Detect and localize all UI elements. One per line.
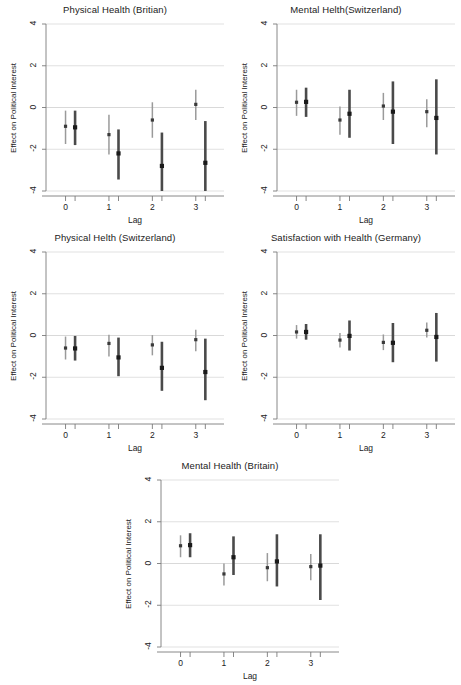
chart-panel: Physical Helth (Switzerland)Effect on Po… — [0, 228, 230, 456]
x-tick-label: 2 — [376, 202, 390, 212]
y-axis-label: Effect on Political Interest — [124, 509, 133, 619]
panel-title: Mental Helth(Switzerland) — [231, 4, 461, 15]
chart-panel: Mental Health (Britain)Effect on Politic… — [115, 456, 345, 684]
chart-panel: Mental Helth(Switzerland)Effect on Polit… — [231, 0, 461, 228]
x-tick-label: 0 — [59, 202, 73, 212]
x-tick-label: 3 — [189, 202, 203, 212]
y-tick-label: 2 — [259, 286, 269, 300]
series-estimate-a — [64, 90, 197, 155]
y-tick-label: 2 — [143, 514, 153, 528]
x-tick-label: 0 — [59, 430, 73, 440]
x-tick-label: 2 — [145, 430, 159, 440]
y-axis-label: Effect on Political Interest — [240, 281, 249, 391]
y-tick-label: -4 — [28, 411, 38, 425]
y-tick-label: -2 — [259, 141, 269, 155]
y-tick-label: 2 — [259, 58, 269, 72]
y-tick-label: 0 — [143, 556, 153, 570]
panel-title: Physical Helth (Switzerland) — [0, 232, 230, 243]
x-tick-label: 2 — [260, 658, 274, 668]
x-tick-label: 3 — [304, 658, 318, 668]
chart-panel: Physical Health (Britian)Effect on Polit… — [0, 0, 230, 228]
chart-panel: Satisfaction with Health (Germany)Effect… — [231, 228, 461, 456]
x-tick-label: 2 — [376, 430, 390, 440]
y-axis-label-text: Effect on Political Interest — [9, 281, 18, 391]
x-axis-label: Lag — [346, 215, 386, 225]
x-tick-label: 3 — [420, 202, 434, 212]
series-estimate-b — [73, 336, 207, 400]
series-estimate-b — [188, 533, 322, 600]
y-tick-label: 4 — [259, 244, 269, 258]
series-estimate-b — [304, 79, 438, 154]
y-tick-label: -2 — [259, 369, 269, 383]
y-axis-label-text: Effect on Political Interest — [240, 281, 249, 391]
x-axis-label: Lag — [115, 215, 155, 225]
x-tick-label: 0 — [290, 202, 304, 212]
series-estimate-a — [295, 323, 428, 351]
y-tick-label: 2 — [28, 58, 38, 72]
series-estimate-a — [179, 535, 312, 585]
y-tick-label: -2 — [143, 597, 153, 611]
y-axis-label-text: Effect on Political Interest — [240, 53, 249, 163]
y-tick-label: 0 — [259, 328, 269, 342]
x-axis-label: Lag — [230, 671, 270, 681]
x-tick-label: 1 — [102, 430, 116, 440]
y-tick-label: 4 — [28, 16, 38, 30]
x-tick-label: 1 — [217, 658, 231, 668]
y-tick-label: -4 — [259, 411, 269, 425]
x-tick-label: 0 — [290, 430, 304, 440]
y-tick-label: -2 — [28, 369, 38, 383]
series-estimate-b — [304, 313, 438, 362]
x-tick-label: 2 — [145, 202, 159, 212]
y-tick-label: -2 — [28, 141, 38, 155]
figure-panel-grid: Physical Health (Britian)Effect on Polit… — [0, 0, 461, 685]
y-tick-label: 4 — [259, 16, 269, 30]
x-tick-label: 3 — [420, 430, 434, 440]
series-estimate-a — [295, 90, 428, 135]
x-tick-label: 1 — [333, 430, 347, 440]
series-estimate-b — [73, 111, 207, 191]
series-estimate-a — [64, 330, 197, 360]
y-tick-label: 0 — [259, 100, 269, 114]
y-tick-label: -4 — [259, 183, 269, 197]
x-tick-label: 3 — [189, 430, 203, 440]
y-axis-label: Effect on Political Interest — [9, 281, 18, 391]
y-axis-label: Effect on Political Interest — [9, 53, 18, 163]
x-axis-label: Lag — [346, 443, 386, 453]
y-axis-label-text: Effect on Political Interest — [124, 509, 133, 619]
y-tick-label: -4 — [28, 183, 38, 197]
x-tick-label: 0 — [174, 658, 188, 668]
y-axis-label-text: Effect on Political Interest — [9, 53, 18, 163]
y-tick-label: 4 — [28, 244, 38, 258]
panel-title: Satisfaction with Health (Germany) — [231, 232, 461, 243]
x-tick-label: 1 — [333, 202, 347, 212]
x-tick-label: 1 — [102, 202, 116, 212]
x-axis-label: Lag — [115, 443, 155, 453]
y-tick-label: 4 — [143, 472, 153, 486]
panel-title: Physical Health (Britian) — [0, 4, 230, 15]
y-tick-label: 0 — [28, 100, 38, 114]
y-tick-label: 2 — [28, 286, 38, 300]
panel-title: Mental Health (Britain) — [115, 460, 345, 471]
y-tick-label: 0 — [28, 328, 38, 342]
y-tick-label: -4 — [143, 639, 153, 653]
y-axis-label: Effect on Political Interest — [240, 53, 249, 163]
